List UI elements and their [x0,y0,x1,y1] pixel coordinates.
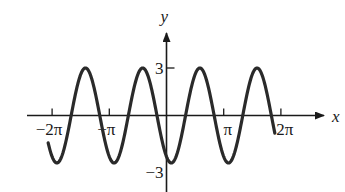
x-tick-label: −2π [36,120,63,139]
y-tick-label: −3 [145,163,163,182]
x-axis-label: x [331,107,340,126]
y-axis-label: y [159,7,169,26]
x-tick-label: π [223,120,232,139]
x-tick-label: 2π [276,120,294,139]
y-tick-label: 3 [155,59,164,78]
chart: −2π−ππ2π3−3 x y [0,0,345,192]
